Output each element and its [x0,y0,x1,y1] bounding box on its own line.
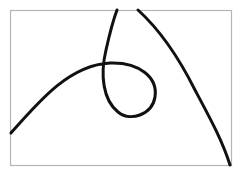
frame-border [11,11,232,166]
line-drawing [0,0,244,171]
